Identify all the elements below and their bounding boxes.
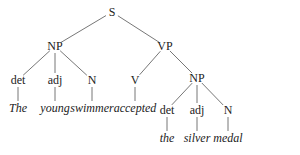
word-leaf-young: young [40, 102, 69, 114]
category-node-v: V [131, 74, 140, 86]
category-node-np: NP [189, 72, 204, 84]
category-node-np: NP [47, 40, 62, 52]
parse-tree-diagram: SNPVPdetadjNVNPTheyoungswimmeracceptedde… [0, 0, 300, 155]
category-node-s: S [109, 6, 116, 18]
tree-edge [202, 83, 223, 105]
category-node-vp: VP [157, 40, 172, 52]
word-leaf-medal: medal [213, 132, 242, 144]
word-leaf-the: the [160, 132, 175, 144]
word-leaf-silver: silver [184, 132, 211, 144]
tree-edge [23, 51, 50, 76]
tree-edge [61, 16, 106, 43]
word-leaf-accepted: accepted [114, 102, 157, 114]
category-node-det: det [11, 74, 26, 86]
tree-edge [170, 51, 192, 73]
tree-edge [60, 51, 87, 76]
tree-edge [172, 83, 192, 105]
category-node-n: N [88, 74, 97, 86]
category-node-adj: adj [190, 104, 205, 116]
category-node-det: det [160, 104, 175, 116]
tree-edge [118, 16, 159, 42]
category-node-adj: adj [48, 74, 63, 86]
word-leaf-the: The [9, 102, 27, 114]
category-node-n: N [224, 104, 233, 116]
tree-edge [140, 51, 161, 75]
word-leaf-swimmer: swimmer [70, 102, 113, 114]
tree-edges [0, 0, 300, 155]
